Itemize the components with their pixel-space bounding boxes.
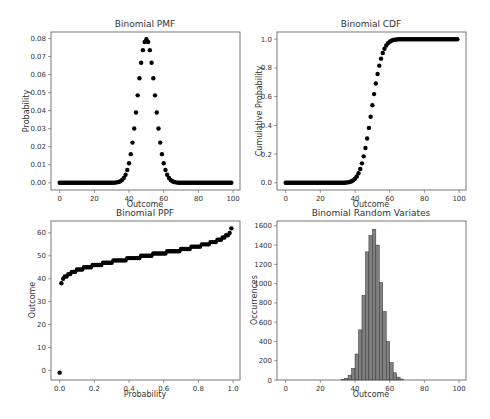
data-point [129, 152, 133, 156]
histogram-bar [397, 377, 400, 380]
histogram-bar [386, 341, 389, 380]
data-point [134, 110, 138, 114]
pmf-chart: Binomial PMF Outcome Probability 0204060… [22, 19, 240, 209]
y-tick-label: 1000 [254, 280, 272, 288]
data-point [156, 126, 160, 130]
y-tick-label: 0.04 [30, 107, 46, 115]
x-tick-label: 100 [452, 195, 465, 203]
data-point [148, 48, 152, 52]
y-tick-label: 0.0 [261, 179, 272, 187]
histogram-bar [376, 245, 379, 380]
rvs-title: Binomial Random Variates [312, 208, 431, 218]
y-tick-label: 10 [37, 344, 46, 352]
histogram-bar [369, 235, 372, 380]
histogram-bar [365, 252, 368, 380]
y-tick-label: 20 [37, 321, 46, 329]
y-tick-label: 30 [37, 298, 46, 306]
data-point [59, 281, 63, 285]
y-tick-label: 0.6 [261, 93, 273, 101]
data-point [363, 146, 367, 150]
axes-frame [51, 221, 240, 380]
data-point [57, 370, 61, 374]
x-tick-label: 0.2 [89, 385, 100, 393]
x-tick-label: 40 [351, 195, 360, 203]
cdf-title: Binomial CDF [341, 19, 401, 29]
data-point [130, 140, 134, 144]
y-tick-label: 1.0 [261, 36, 272, 44]
data-point [125, 168, 129, 172]
y-tick-label: 400 [259, 338, 272, 346]
data-point [146, 40, 150, 44]
x-tick-label: 0 [283, 195, 287, 203]
histogram-bar [390, 363, 393, 380]
histogram-bar [379, 283, 382, 380]
data-point [123, 173, 127, 177]
axes-frame [277, 32, 466, 190]
x-tick-label: 100 [452, 385, 465, 393]
pmf-title: Binomial PMF [115, 19, 175, 29]
x-tick-label: 0.0 [54, 385, 65, 393]
histogram-bar [352, 368, 355, 380]
y-tick-label: 0.2 [261, 151, 272, 159]
x-tick-label: 0 [283, 385, 287, 393]
histogram-bar [383, 312, 386, 380]
data-point [370, 103, 374, 107]
y-tick-label: 1400 [254, 242, 272, 250]
x-tick-label: 80 [194, 195, 203, 203]
data-point [455, 37, 459, 41]
y-tick-label: 0.07 [30, 53, 46, 61]
cdf-chart: Binomial CDF Outcome Cumulative Probabil… [255, 19, 466, 209]
data-point [356, 171, 360, 175]
histogram-bar [393, 373, 396, 380]
data-point [227, 231, 231, 235]
data-point [160, 152, 164, 156]
data-point [367, 126, 371, 130]
x-tick-label: 20 [316, 195, 325, 203]
y-tick-label: 50 [37, 252, 46, 260]
ppf-title: Binomial PPF [116, 208, 174, 218]
x-tick-label: 0.4 [123, 385, 135, 393]
y-tick-label: 600 [259, 319, 272, 327]
y-tick-label: 0 [42, 367, 46, 375]
y-tick-label: 0.00 [30, 179, 46, 187]
data-point [155, 110, 159, 114]
y-tick-label: 0.4 [261, 122, 273, 130]
ppf-ylabel: Outcome [28, 282, 37, 319]
x-tick-label: 40 [125, 195, 134, 203]
cdf-ylabel: Cumulative Probability [255, 65, 264, 156]
data-point [139, 60, 143, 64]
data-point [132, 126, 136, 130]
y-tick-label: 0.06 [30, 71, 46, 79]
x-tick-label: 0.8 [193, 385, 204, 393]
axes-frame [51, 32, 240, 190]
y-tick-label: 200 [259, 357, 272, 365]
y-tick-label: 0.08 [30, 35, 46, 43]
data-point [360, 161, 364, 165]
x-tick-label: 60 [385, 385, 394, 393]
histogram-bars [341, 229, 403, 380]
y-tick-label: 0.02 [30, 143, 46, 151]
y-tick-label: 0 [268, 377, 272, 385]
x-tick-label: 60 [385, 195, 394, 203]
y-tick-label: 40 [37, 275, 46, 283]
y-tick-label: 1200 [254, 261, 272, 269]
data-point [127, 161, 131, 165]
x-tick-label: 20 [316, 385, 325, 393]
x-tick-label: 0.6 [158, 385, 170, 393]
data-point [372, 92, 376, 96]
data-point [374, 81, 378, 85]
data-point [358, 167, 362, 171]
data-point [229, 181, 233, 185]
ppf-chart: Binomial PPF Probability Outcome 0.00.20… [28, 208, 240, 399]
histogram-bar [372, 229, 375, 380]
figure: Binomial PMF Outcome Probability 0204060… [0, 0, 490, 419]
data-point [368, 115, 372, 119]
data-point [377, 63, 381, 67]
x-tick-label: 1.0 [227, 385, 238, 393]
x-tick-label: 20 [90, 195, 99, 203]
y-tick-label: 0.8 [261, 64, 272, 72]
histogram-bar [362, 295, 365, 380]
histogram-bar [355, 354, 358, 380]
x-tick-label: 60 [159, 195, 168, 203]
data-point [141, 48, 145, 52]
